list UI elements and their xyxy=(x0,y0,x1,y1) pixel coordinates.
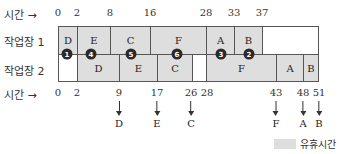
down-arrow-icon xyxy=(302,101,303,111)
top-tick: 2 xyxy=(74,7,80,18)
bottom-axis-arrow-icon: → xyxy=(28,89,37,102)
sequence-marker-3: 3 xyxy=(216,49,227,60)
sequence-marker-1: 1 xyxy=(62,49,73,60)
top-tick: 33 xyxy=(228,7,241,18)
completion-C: C xyxy=(187,101,195,129)
bottom-tick: 51 xyxy=(313,87,326,98)
sequence-marker-5: 5 xyxy=(126,49,137,60)
station2-block-B: B xyxy=(303,54,319,82)
down-arrow-icon xyxy=(318,101,319,111)
top-tick: 28 xyxy=(200,7,213,18)
completion-F: F xyxy=(273,101,280,129)
top-axis-label: 시간 → xyxy=(4,6,37,22)
legend-idle-swatch xyxy=(274,139,296,149)
row-label-station-2: 작업장 2 xyxy=(4,62,45,78)
top-axis-arrow-icon: → xyxy=(28,9,37,22)
down-arrow-icon xyxy=(157,101,158,111)
down-arrow-icon xyxy=(275,101,276,111)
bottom-tick: 17 xyxy=(151,87,164,98)
completion-A: A xyxy=(299,101,306,129)
bottom-tick: 43 xyxy=(270,87,283,98)
top-tick: 8 xyxy=(107,7,113,18)
top-tick: 16 xyxy=(144,7,157,18)
completion-E: E xyxy=(153,101,160,129)
bottom-tick: 26 xyxy=(185,87,198,98)
station2-idle-block xyxy=(192,54,207,82)
station1-idle-block xyxy=(262,26,319,55)
top-axis-title: 시간 xyxy=(4,9,24,22)
row-label-station-1: 작업장 1 xyxy=(4,33,45,49)
station2-block-A: A xyxy=(276,54,304,82)
station2-block-E: E xyxy=(119,54,158,82)
down-arrow-icon xyxy=(119,101,120,111)
bottom-tick: 48 xyxy=(297,87,310,98)
legend-idle-label: 유휴시간 xyxy=(300,136,336,151)
bottom-axis-label: 시간 → xyxy=(4,86,37,102)
bottom-axis-title: 시간 xyxy=(4,89,24,102)
top-tick: 37 xyxy=(256,7,269,18)
station2-block-D: D xyxy=(77,54,120,82)
down-arrow-icon xyxy=(191,101,192,111)
bottom-tick: 2 xyxy=(74,87,80,98)
top-tick: 0 xyxy=(55,7,61,18)
completion-B: B xyxy=(315,101,322,129)
bottom-tick: 9 xyxy=(116,87,122,98)
bottom-tick: 28 xyxy=(201,87,214,98)
sequence-marker-4: 4 xyxy=(86,49,97,60)
bottom-tick: 0 xyxy=(55,87,61,98)
sequence-marker-2: 2 xyxy=(244,49,255,60)
sequence-marker-6: 6 xyxy=(172,49,183,60)
completion-D: D xyxy=(115,101,123,129)
